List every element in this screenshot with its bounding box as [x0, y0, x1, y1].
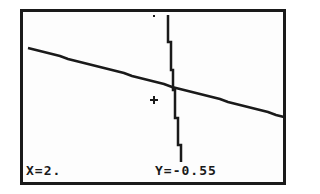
stray-pixel	[153, 15, 155, 17]
trace-y-value: Y=-0.55	[155, 163, 217, 179]
slanted-line-graph	[28, 48, 284, 117]
trace-cursor-icon	[150, 96, 158, 104]
trace-x-value: X=2.	[26, 163, 61, 179]
